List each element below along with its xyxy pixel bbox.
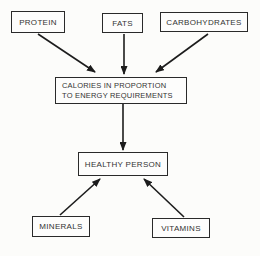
node-vitamins: VITAMINS — [152, 218, 210, 238]
node-vitamins-label: VITAMINS — [161, 224, 201, 233]
node-healthy-person-label: HEALTHY PERSON — [85, 160, 161, 169]
node-fats-label: FATS — [112, 19, 133, 28]
arrow-protein-to-calories — [38, 34, 95, 72]
node-calories: CALORIES IN PROPORTION TO ENERGY REQUIRE… — [55, 77, 187, 104]
node-fats: FATS — [102, 13, 143, 33]
node-protein-label: PROTEIN — [19, 18, 57, 27]
arrow-carbohydrates-to-calories — [156, 34, 208, 72]
node-healthy-person: HEALTHY PERSON — [78, 152, 168, 176]
node-carbohydrates: CARBOHYDRATES — [160, 12, 248, 32]
arrow-vitamins-to-healthy-person — [144, 179, 184, 217]
node-protein: PROTEIN — [11, 11, 65, 33]
node-calories-label-line1: CALORIES IN PROPORTION — [62, 81, 166, 91]
node-calories-label-line2: TO ENERGY REQUIREMENTS — [62, 91, 173, 101]
nutrition-flow-diagram: PROTEIN FATS CARBOHYDRATES CALORIES IN P… — [0, 0, 260, 256]
arrow-minerals-to-healthy-person — [60, 179, 100, 215]
node-carbohydrates-label: CARBOHYDRATES — [166, 18, 241, 27]
node-minerals: MINERALS — [32, 216, 90, 237]
node-minerals-label: MINERALS — [39, 222, 82, 231]
